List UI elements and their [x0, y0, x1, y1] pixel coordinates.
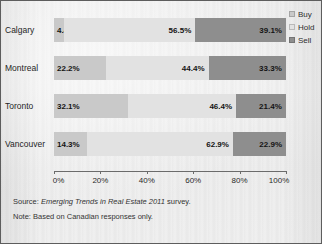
x-axis-tick-label: 60% — [185, 176, 201, 185]
source-note: Source: Emerging Trends in Real Estate 2… — [13, 197, 191, 206]
bar-value-sell: 39.1% — [259, 26, 282, 35]
stacked-bar-toronto: 32.1% 46.4% 21.4% — [54, 94, 286, 118]
bar-segment-buy[interactable]: 4.4% — [54, 18, 64, 42]
x-axis-tick-label: 80% — [232, 176, 248, 185]
methodology-note: Note: Based on Canadian responses only. — [13, 212, 191, 221]
bar-segment-sell[interactable]: 22.9% — [233, 132, 286, 156]
legend-item-buy[interactable]: Buy — [289, 8, 322, 20]
legend-swatch-hold-icon — [289, 24, 295, 30]
x-axis-tick-label: 40% — [139, 176, 155, 185]
table-row: Toronto 32.1% 46.4% 21.4% — [1, 87, 289, 125]
bar-value-sell: 21.4% — [259, 102, 282, 111]
x-axis-tick — [100, 171, 101, 174]
bar-segment-hold[interactable]: 56.5% — [64, 18, 195, 42]
bar-value-sell: 22.9% — [259, 140, 282, 149]
bar-value-buy: 14.3% — [57, 140, 80, 149]
bar-value-buy: 22.2% — [57, 64, 80, 73]
table-row: Montreal 22.2% 44.4% 33.3% — [1, 49, 289, 87]
x-axis-tick-label: 0% — [53, 176, 65, 185]
legend-label-hold: Hold — [298, 23, 314, 32]
legend-swatch-sell-icon — [289, 37, 295, 43]
bar-segment-hold[interactable]: 46.4% — [128, 94, 236, 118]
bar-value-hold: 46.4% — [209, 102, 232, 111]
category-label-toronto: Toronto — [5, 101, 51, 111]
bar-segment-sell[interactable]: 39.1% — [195, 18, 286, 42]
x-axis-line: 0% 20% 40% 60% 80% 100% — [54, 171, 286, 172]
bar-value-sell: 33.3% — [259, 64, 282, 73]
bar-segment-buy[interactable]: 14.3% — [54, 132, 87, 156]
stacked-bar-vancouver: 14.3% 62.9% 22.9% — [54, 132, 286, 156]
category-label-montreal: Montreal — [5, 63, 51, 73]
chart-footnotes: Source: Emerging Trends in Real Estate 2… — [13, 197, 191, 227]
source-note-suffix: survey. — [165, 197, 191, 206]
stacked-bar-calgary: 4.4% 56.5% 39.1% — [54, 18, 286, 42]
bar-segment-buy[interactable]: 22.2% — [54, 56, 106, 80]
x-axis-tick — [286, 171, 287, 174]
bar-value-hold: 56.5% — [169, 26, 192, 35]
bar-segment-sell[interactable]: 33.3% — [209, 56, 286, 80]
table-row: Vancouver 14.3% 62.9% 22.9% — [1, 125, 289, 163]
x-axis-tick — [54, 171, 55, 174]
table-row: Calgary 4.4% 56.5% 39.1% — [1, 11, 289, 49]
legend-label-sell: Sell — [298, 36, 311, 45]
x-axis-tick-label: 100% — [269, 176, 289, 185]
x-axis-tick-label: 20% — [92, 176, 108, 185]
bar-value-hold: 44.4% — [182, 64, 205, 73]
bar-value-buy: 32.1% — [57, 102, 80, 111]
source-note-prefix: Source: — [13, 197, 41, 206]
x-axis-tick — [147, 171, 148, 174]
bar-value-hold: 62.9% — [206, 140, 229, 149]
stacked-bar-montreal: 22.2% 44.4% 33.3% — [54, 56, 286, 80]
legend-label-buy: Buy — [298, 10, 312, 19]
legend-item-sell[interactable]: Sell — [289, 34, 322, 46]
category-label-vancouver: Vancouver — [5, 139, 51, 149]
source-note-title: Emerging Trends in Real Estate 2011 — [41, 197, 165, 206]
x-axis-tick — [240, 171, 241, 174]
chart-legend: Buy Hold Sell — [289, 8, 322, 47]
x-axis-tick — [193, 171, 194, 174]
bar-segment-sell[interactable]: 21.4% — [236, 94, 286, 118]
x-axis: 0% 20% 40% 60% 80% 100% — [54, 171, 286, 172]
bar-segment-hold[interactable]: 44.4% — [106, 56, 209, 80]
chart-figure: Buy Hold Sell Calgary 4.4% 56.5% 39.1% — [0, 0, 322, 244]
legend-swatch-buy-icon — [289, 11, 295, 17]
bar-segment-buy[interactable]: 32.1% — [54, 94, 128, 118]
bar-segment-hold[interactable]: 62.9% — [87, 132, 233, 156]
chart-plot-area: Calgary 4.4% 56.5% 39.1% Montreal 22.2% — [1, 11, 289, 171]
category-label-calgary: Calgary — [5, 25, 51, 35]
legend-item-hold[interactable]: Hold — [289, 21, 322, 33]
